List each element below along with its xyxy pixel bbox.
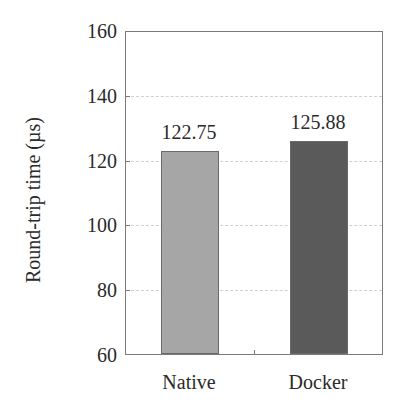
y-tick-label: 120	[57, 151, 117, 171]
bar-chart: Round-trip time (µs) 6080100120140160 12…	[0, 0, 409, 419]
plot-area	[125, 31, 383, 355]
y-tick-label: 80	[57, 280, 117, 300]
y-tick-label: 60	[57, 345, 117, 365]
y-tick	[126, 290, 130, 291]
y-tick	[126, 161, 130, 162]
y-tick	[126, 225, 130, 226]
bar-value-label: 122.75	[139, 121, 239, 144]
y-tick-label: 100	[57, 215, 117, 235]
y-tick	[126, 96, 130, 97]
bar-value-label: 125.88	[268, 111, 368, 134]
x-category-label: Native	[129, 371, 249, 394]
gridline	[126, 96, 382, 97]
x-tick	[254, 350, 255, 354]
y-axis-label: Round-trip time (µs)	[22, 117, 45, 283]
y-tick-label: 160	[57, 21, 117, 41]
x-category-label: Docker	[258, 371, 378, 394]
y-tick-label: 140	[57, 86, 117, 106]
bar-native	[161, 151, 219, 354]
bar-docker	[290, 141, 348, 354]
